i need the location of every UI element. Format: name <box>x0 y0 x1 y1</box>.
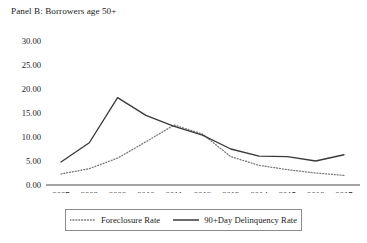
solid-line-swatch <box>173 216 199 224</box>
y-axis-tick-label: 20.00 <box>22 84 41 94</box>
x-axis-tick-label: 2017 <box>335 190 353 194</box>
y-axis-tick-label: 5.00 <box>26 156 41 166</box>
x-axis-tick-label: 2011 <box>166 190 183 194</box>
y-axis-tick-labels: 0.005.0010.0015.0020.0025.0030.00 <box>22 36 41 190</box>
series-line-90-day-delinquency-rate <box>61 98 344 162</box>
x-axis-tick-label: 2015 <box>279 190 296 194</box>
x-axis-tick-label: 2008 <box>81 190 98 194</box>
x-axis-tick-label: 2014 <box>251 190 269 194</box>
x-axis-tick-label: 2007 <box>52 190 70 194</box>
x-axis-tick-labels: 2007200820092010201120122013201420152016… <box>52 190 353 194</box>
legend-item-label: Foreclosure Rate <box>101 215 160 225</box>
y-axis-tick-label: 10.00 <box>22 132 41 142</box>
y-axis-tick-label: 30.00 <box>22 36 41 46</box>
x-axis-tick-label: 2012 <box>194 190 211 194</box>
y-axis-tick-label: 0.00 <box>26 180 41 190</box>
dotted-line-swatch <box>70 216 96 224</box>
legend-entries: Foreclosure Rate90+Day Delinquency Rate <box>66 210 301 230</box>
x-axis-tick-label: 2013 <box>222 190 239 194</box>
line-chart: 0.005.0010.0015.0020.0025.0030.00 200720… <box>0 28 367 193</box>
x-axis-tick-label: 2016 <box>307 190 325 194</box>
legend: Foreclosure Rate90+Day Delinquency Rate <box>65 209 302 231</box>
plot-area: 0.005.0010.0015.0020.0025.0030.00 200720… <box>0 28 367 193</box>
legend-item[interactable]: 90+Day Delinquency Rate <box>173 215 297 225</box>
legend-item-label: 90+Day Delinquency Rate <box>204 215 297 225</box>
x-axis-tick-label: 2009 <box>109 190 126 194</box>
y-axis-tick-label: 25.00 <box>22 60 41 70</box>
x-axis-tick-label: 2010 <box>137 190 154 194</box>
y-axis-tick-label: 15.00 <box>22 108 41 118</box>
series-paths <box>61 98 344 176</box>
page-title: Panel B: Borrowers age 50+ <box>11 6 116 17</box>
series-line-foreclosure-rate <box>61 125 344 175</box>
figure-panel-b: Panel B: Borrowers age 50+ 0.005.0010.00… <box>0 0 367 243</box>
legend-item[interactable]: Foreclosure Rate <box>70 215 160 225</box>
